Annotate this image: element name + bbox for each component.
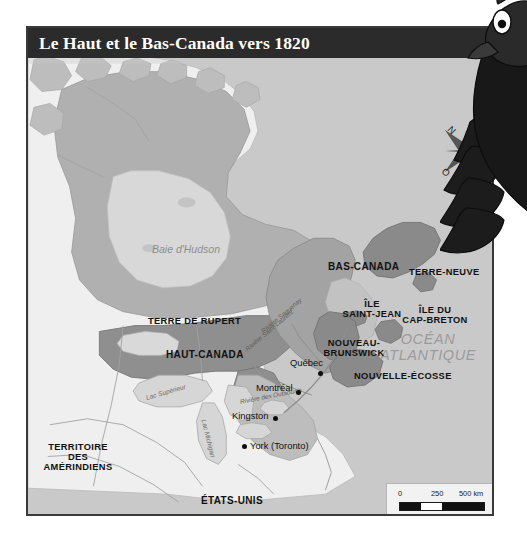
- label-nouveau-brunswick-line2: BRUNSWICK: [321, 348, 387, 358]
- label-baie-d-hudson: Baie d'Hudson: [152, 244, 220, 255]
- scale-label-max: 500 km: [459, 489, 483, 498]
- bay-island: [178, 198, 196, 208]
- label-city-york-toronto: York (Toronto): [250, 441, 309, 451]
- label-nouveau-brunswick-line1: NOUVEAU-: [321, 338, 387, 348]
- city-dot-kingston: [273, 416, 278, 421]
- label-territoire-line3: AMÉRINDIENS: [36, 462, 120, 472]
- compass-label-n: N: [446, 124, 459, 137]
- scale-label-mid: 250: [431, 489, 443, 498]
- label-ocean-atlantique: OCÉAN ATLANTIQUE: [376, 332, 480, 363]
- scale-segment-3: [442, 503, 463, 510]
- label-bas-canada: BAS-CANADA: [328, 262, 399, 273]
- label-ocean-atlantique-line2: ATLANTIQUE: [376, 348, 480, 364]
- label-territoire-line2: DES: [36, 452, 120, 462]
- scale-labels: 0 250 500 km: [387, 489, 494, 500]
- mascot-tuft: [497, 0, 510, 4]
- scale-segment-4: [463, 503, 484, 510]
- scale-bar-graphic: [399, 502, 485, 511]
- label-terre-de-rupert: TERRE DE RUPERT: [148, 316, 241, 326]
- mascot-pupil: [498, 20, 506, 28]
- mascot-eye: [493, 10, 511, 34]
- label-ile-saint-jean-line1: ÎLE: [339, 299, 405, 309]
- city-dot-montreal: [296, 390, 301, 395]
- city-dot-quebec: [318, 371, 323, 376]
- compass-label-o: O: [440, 166, 453, 179]
- label-haut-canada: HAUT-CANADA: [166, 350, 244, 361]
- label-ile-du-cap-breton-line2: CAP-BRETON: [399, 315, 471, 325]
- label-ile-saint-jean: ÎLE SAINT-JEAN: [339, 299, 405, 319]
- lac-erie: [236, 423, 272, 439]
- label-ile-du-cap-breton-line1: ÎLE DU: [399, 305, 471, 315]
- page-title: Le Haut et le Bas-Canada vers 1820: [28, 33, 310, 54]
- label-ile-saint-jean-line2: SAINT-JEAN: [339, 309, 405, 319]
- compass-label-e: E: [486, 128, 494, 140]
- label-nouveau-brunswick: NOUVEAU- BRUNSWICK: [321, 338, 387, 358]
- map-top-fade: [28, 58, 492, 64]
- label-city-quebec: Québec: [290, 358, 323, 368]
- compass-rose: N E S O: [425, 110, 494, 192]
- label-terre-neuve: TERRE-NEUVE: [409, 267, 480, 277]
- label-territoire-des-amerindiens: TERRITOIRE DES AMÉRINDIENS: [36, 442, 120, 472]
- map-figure: Le Haut et le Bas-Canada vers 1820 Baie …: [26, 26, 494, 516]
- city-dot-york-toronto: [242, 444, 247, 449]
- scale-segment-1: [400, 503, 421, 510]
- label-ile-du-cap-breton: ÎLE DU CAP-BRETON: [399, 305, 471, 325]
- label-etats-unis: ÉTATS-UNIS: [201, 496, 263, 507]
- label-territoire-line1: TERRITOIRE: [36, 442, 120, 452]
- label-ocean-atlantique-line1: OCÉAN: [376, 332, 480, 348]
- map-title-bar: Le Haut et le Bas-Canada vers 1820: [28, 28, 492, 58]
- map-page: Le Haut et le Bas-Canada vers 1820 Baie …: [0, 0, 527, 548]
- scale-label-zero: 0: [398, 489, 402, 498]
- label-nouvelle-ecosse: NOUVELLE-ÉCOSSE: [354, 371, 452, 381]
- scale-segment-2: [421, 503, 442, 510]
- scale-bar-box: 0 250 500 km: [386, 483, 494, 516]
- label-city-kingston: Kingston: [232, 411, 268, 421]
- compass-label-s: S: [484, 170, 494, 182]
